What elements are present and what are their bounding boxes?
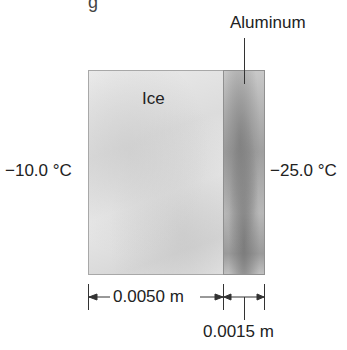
ice-thickness-label: 0.0050 m (113, 287, 184, 307)
aluminum-thickness-label: 0.0015 m (203, 322, 274, 342)
